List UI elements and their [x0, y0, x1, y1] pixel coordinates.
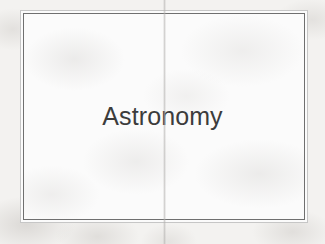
slide-title: Astronomy [0, 101, 325, 131]
scanned-slide-page: Astronomy [0, 0, 325, 244]
